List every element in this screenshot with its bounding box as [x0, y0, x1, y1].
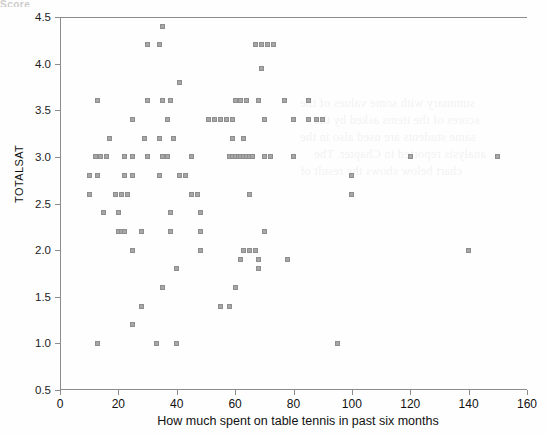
- data-point: [233, 98, 238, 103]
- data-point: [212, 117, 217, 122]
- data-point: [139, 229, 144, 234]
- data-point: [171, 136, 176, 141]
- data-point: [268, 154, 273, 159]
- data-point: [160, 98, 165, 103]
- data-point: [306, 117, 311, 122]
- x-axis-tick: [352, 390, 353, 395]
- data-point: [230, 136, 235, 141]
- y-axis-tick-label: 1.0: [35, 337, 51, 349]
- data-point: [256, 98, 261, 103]
- data-point: [408, 154, 413, 159]
- data-point: [256, 257, 261, 262]
- data-point: [130, 154, 135, 159]
- data-point: [116, 210, 121, 215]
- data-point: [122, 173, 127, 178]
- y-axis-tick-label: 0.5: [35, 384, 51, 396]
- x-axis-tick: [410, 390, 411, 395]
- data-point: [256, 266, 261, 271]
- data-point: [122, 229, 127, 234]
- data-point: [262, 117, 267, 122]
- data-point: [107, 136, 112, 141]
- x-axis-tick-label: 60: [228, 397, 241, 411]
- data-point: [174, 341, 179, 346]
- data-point: [101, 210, 106, 215]
- data-point: [160, 285, 165, 290]
- data-point: [113, 192, 118, 197]
- data-point: [168, 98, 173, 103]
- x-axis-tick: [118, 390, 119, 395]
- data-point: [122, 154, 127, 159]
- data-point: [177, 173, 182, 178]
- data-point: [145, 154, 150, 159]
- data-point: [198, 248, 203, 253]
- data-point: [218, 117, 223, 122]
- y-axis-tick-label: 2.5: [35, 198, 51, 210]
- data-point: [145, 42, 150, 47]
- y-axis-tick: 2.0: [55, 250, 60, 251]
- y-axis-tick: 2.5: [55, 204, 60, 205]
- data-point: [139, 304, 144, 309]
- x-axis-tick: [235, 390, 236, 395]
- data-point: [291, 154, 296, 159]
- data-point: [177, 80, 182, 85]
- data-point: [253, 248, 258, 253]
- data-point: [198, 210, 203, 215]
- data-point: [218, 304, 223, 309]
- y-axis-tick-label: 4.5: [35, 11, 51, 23]
- data-point: [130, 322, 135, 327]
- data-point: [168, 210, 173, 215]
- data-point: [206, 117, 211, 122]
- y-axis-tick-label: 3.0: [35, 151, 51, 163]
- cropped-header-text: Score: [0, 0, 30, 7]
- data-point: [104, 154, 109, 159]
- data-point: [160, 154, 165, 159]
- data-point: [98, 154, 103, 159]
- data-point: [87, 192, 92, 197]
- x-axis-tick-label: 80: [287, 397, 300, 411]
- data-point: [466, 248, 471, 253]
- y-axis-tick: 3.5: [55, 110, 60, 111]
- data-point: [189, 154, 194, 159]
- data-point: [154, 341, 159, 346]
- data-point: [93, 154, 98, 159]
- data-point: [238, 98, 243, 103]
- y-axis-tick: 3.0: [55, 157, 60, 158]
- x-axis-tick-label: 100: [342, 397, 362, 411]
- data-point: [247, 192, 252, 197]
- data-point: [306, 98, 311, 103]
- data-point: [183, 173, 188, 178]
- data-point: [95, 341, 100, 346]
- x-axis-tick: [294, 390, 295, 395]
- data-point: [335, 341, 340, 346]
- data-point: [224, 117, 229, 122]
- x-axis-tick-label: 40: [170, 397, 183, 411]
- data-point: [168, 229, 173, 234]
- x-axis-tick: [469, 390, 470, 395]
- scatter-plot-figure: Score summary with some values of thesco…: [0, 0, 548, 436]
- data-point: [320, 117, 325, 122]
- data-point: [165, 154, 170, 159]
- data-point: [157, 42, 162, 47]
- data-point: [495, 154, 500, 159]
- data-point: [233, 285, 238, 290]
- data-point: [157, 173, 162, 178]
- data-point: [262, 229, 267, 234]
- data-point: [262, 154, 267, 159]
- data-point: [160, 24, 165, 29]
- data-point: [238, 257, 243, 262]
- x-axis-tick-label: 20: [112, 397, 125, 411]
- y-axis-tick: 4.0: [55, 64, 60, 65]
- data-point: [174, 266, 179, 271]
- y-axis-tick-label: 2.0: [35, 244, 51, 256]
- data-point: [314, 117, 319, 122]
- data-point: [227, 304, 232, 309]
- y-axis-tick: 4.5: [55, 17, 60, 18]
- data-point: [95, 173, 100, 178]
- y-axis-tick: 1.0: [55, 343, 60, 344]
- y-axis-tick-label: 3.5: [35, 104, 51, 116]
- y-axis-tick-label: 4.0: [35, 58, 51, 70]
- data-point: [244, 98, 249, 103]
- x-axis-tick-label: 160: [517, 397, 537, 411]
- y-axis-tick-label: 1.5: [35, 291, 51, 303]
- x-axis-tick-label: 120: [400, 397, 420, 411]
